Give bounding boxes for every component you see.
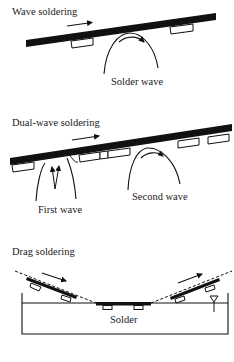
panel-title-drag-soldering: Drag soldering <box>12 246 75 257</box>
first-wave-jet-arrow-icon <box>55 166 59 189</box>
solder-wave-arch <box>104 33 158 74</box>
conveyor-direction-arrow-icon <box>67 23 92 27</box>
component <box>178 138 199 148</box>
soldering-methods-diagram: Wave soldering Solder wave Dual-wave sol… <box>0 0 234 362</box>
first-wave-right-edge <box>67 158 76 199</box>
panel-wave-soldering: Wave soldering Solder wave <box>12 6 216 87</box>
entry-path-dashed <box>15 271 96 303</box>
solder-fillet <box>69 155 78 162</box>
conveyor-direction-arrow-icon <box>72 136 99 140</box>
panel-title-wave-soldering: Wave soldering <box>12 6 78 17</box>
solder-wave-label: Solder wave <box>111 76 164 87</box>
component <box>103 306 112 310</box>
entry-direction-arrow-icon <box>42 273 66 281</box>
panel-dual-wave-soldering: Dual-wave soldering First wave Second wa… <box>10 117 232 215</box>
exit-direction-arrow-icon <box>178 274 202 283</box>
component <box>208 134 229 144</box>
first-wave-left-edge <box>36 163 45 201</box>
first-wave-label: First wave <box>38 204 82 215</box>
wave-flow-arrow-icon <box>141 153 163 158</box>
panel-title-dual-wave-soldering: Dual-wave soldering <box>12 117 101 128</box>
solder-bath-label: Solder <box>110 314 138 325</box>
second-wave-label: Second wave <box>132 191 188 202</box>
component <box>108 148 130 158</box>
component <box>100 151 108 159</box>
pcb-board-in-bath <box>96 302 151 306</box>
liquid-level-marker-icon <box>210 296 218 302</box>
exit-path-dashed <box>151 271 232 303</box>
component <box>134 306 143 310</box>
panel-drag-soldering: Drag soldering Solder <box>12 246 232 334</box>
first-wave-jet-arrow-icon <box>52 167 55 189</box>
second-wave-arch <box>128 148 180 190</box>
wave-flow-arrow-icon <box>119 37 144 42</box>
